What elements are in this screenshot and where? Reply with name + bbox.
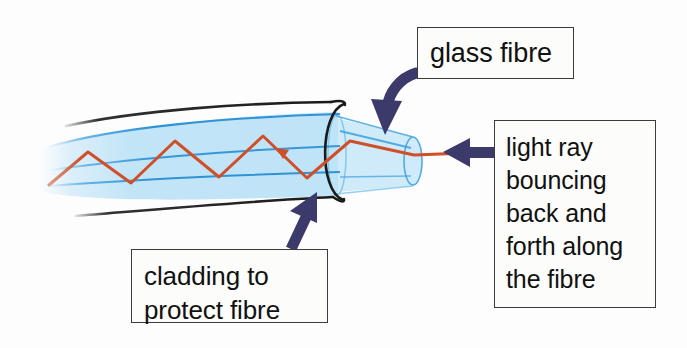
core-lower-boundary-taper [340, 176, 411, 177]
fibre-end-cap [404, 137, 422, 185]
fibre-tapered-section [336, 118, 414, 192]
callout-light-ray-line-2: bouncing [506, 164, 655, 197]
callout-light-ray-line-4: forth along [506, 230, 655, 263]
callout-light-ray-line-5: the fibre [506, 263, 655, 296]
callout-light-ray-line-3: back and [506, 197, 655, 230]
callout-cladding-line-2: protect fibre [144, 293, 327, 327]
cladding-pointer-arrow [290, 192, 317, 249]
glass-fibre-pointer-arrow [371, 73, 416, 135]
light-ray-arrow-head [443, 138, 470, 167]
fibre-body [42, 112, 422, 200]
sheath-bottom-line [76, 197, 333, 216]
light-ray-arrow-shaft [467, 147, 497, 158]
callout-cladding: cladding to protect fibre [131, 249, 328, 323]
diagram-canvas: glass fibre light ray bouncing back and … [0, 0, 687, 348]
light-ray-pointer-arrow [443, 138, 497, 167]
callout-cladding-line-1: cladding to [144, 259, 327, 293]
callout-glass-fibre-line-1: glass fibre [430, 35, 573, 71]
cladding-arrow-shaft [291, 215, 307, 249]
callout-light-ray: light ray bouncing back and forth along … [494, 120, 656, 308]
callout-glass-fibre: glass fibre [417, 27, 574, 79]
callout-light-ray-line-1: light ray [506, 131, 655, 164]
